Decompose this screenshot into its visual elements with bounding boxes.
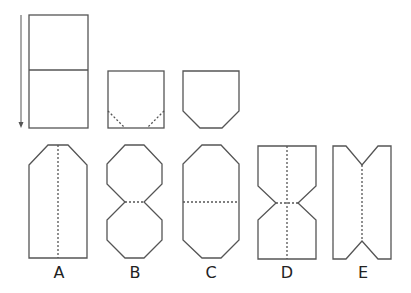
step-unfolded-rectangle [29,15,88,128]
option-b-label: B [120,263,150,282]
option-e-shape[interactable] [333,146,391,259]
option-b-shape[interactable] [107,145,162,258]
step-folded-square [108,71,164,128]
option-a-shape[interactable] [29,145,87,258]
option-c-shape[interactable] [183,145,239,258]
option-d-label: D [272,263,302,282]
fold-arrow-icon [19,15,24,128]
diagram-canvas [0,0,411,293]
option-c-label: C [196,263,226,282]
step-cut-square [183,71,239,128]
option-e-label: E [348,263,378,282]
option-d-shape[interactable] [258,146,316,259]
option-a-label: A [44,263,74,282]
